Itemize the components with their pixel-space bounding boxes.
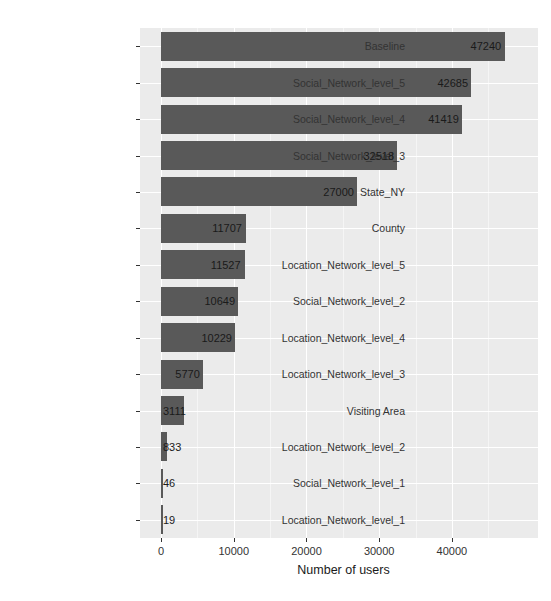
y-axis-tick xyxy=(136,228,140,229)
y-axis-label: Location_Network_level_3 xyxy=(282,368,405,380)
x-axis-title: Number of users xyxy=(0,563,551,577)
plot-panel xyxy=(140,28,538,538)
y-axis-label: Location_Network_level_5 xyxy=(282,259,405,271)
x-axis-tick-label: 40000 xyxy=(437,545,468,557)
bar-value-label: 32518 xyxy=(363,150,394,162)
bar-value-label: 42685 xyxy=(437,77,468,89)
y-axis-label: County xyxy=(372,222,405,234)
x-axis-tick-label: 30000 xyxy=(364,545,395,557)
bar-value-label: 3111 xyxy=(163,405,186,417)
y-axis-label: Social_Network_level_4 xyxy=(293,113,405,125)
y-axis-label: State_NY xyxy=(360,186,405,198)
bar xyxy=(161,32,505,61)
y-axis-tick xyxy=(136,46,140,47)
bar-chart: BaselineSocial_Network_level_5Social_Net… xyxy=(0,0,551,601)
x-axis-tick-label: 0 xyxy=(158,545,164,557)
y-axis-tick xyxy=(136,156,140,157)
bar-value-label: 41419 xyxy=(428,113,459,125)
y-axis-tick xyxy=(136,265,140,266)
y-axis-label: Location_Network_level_2 xyxy=(282,441,405,453)
bar-value-label: 27000 xyxy=(323,186,354,198)
bar-value-label: 10649 xyxy=(204,295,235,307)
bar-value-label: 10229 xyxy=(201,332,232,344)
y-axis-label: Social_Network_level_1 xyxy=(293,477,405,489)
x-axis-tick xyxy=(379,538,380,542)
y-axis-tick xyxy=(136,192,140,193)
x-axis-tick xyxy=(234,538,235,542)
y-axis-label: Visiting Area xyxy=(347,405,405,417)
y-axis-tick xyxy=(136,483,140,484)
x-axis-tick-label: 10000 xyxy=(218,545,249,557)
y-axis-tick xyxy=(136,119,140,120)
y-axis-tick xyxy=(136,301,140,302)
y-axis-tick xyxy=(136,338,140,339)
gridline-x-minor-45000 xyxy=(488,28,489,538)
y-axis-tick xyxy=(136,520,140,521)
gridline-y-10 xyxy=(140,411,538,412)
y-axis-label: Location_Network_level_1 xyxy=(282,514,405,526)
y-axis-tick xyxy=(136,83,140,84)
y-axis-label: Social_Network_level_2 xyxy=(293,295,405,307)
bar-value-label: 11527 xyxy=(211,259,241,271)
x-axis-tick xyxy=(452,538,453,542)
bar-value-label: 11707 xyxy=(212,222,242,234)
y-axis-tick xyxy=(136,447,140,448)
y-axis-label: Social_Network_level_5 xyxy=(293,77,405,89)
x-axis-tick xyxy=(161,538,162,542)
y-axis-tick xyxy=(136,411,140,412)
y-axis-tick xyxy=(136,374,140,375)
y-axis-label: Location_Network_level_4 xyxy=(282,332,405,344)
bar-value-label: 46 xyxy=(163,477,175,489)
bar-value-label: 19 xyxy=(163,514,175,526)
bar-value-label: 47240 xyxy=(471,40,502,52)
bar-value-label: 833 xyxy=(163,441,181,453)
x-axis-title-text: Number of users xyxy=(297,563,389,577)
bar-value-label: 5770 xyxy=(175,368,199,380)
x-axis-tick xyxy=(306,538,307,542)
y-axis-label: Baseline xyxy=(365,40,405,52)
x-axis-tick-label: 20000 xyxy=(291,545,322,557)
